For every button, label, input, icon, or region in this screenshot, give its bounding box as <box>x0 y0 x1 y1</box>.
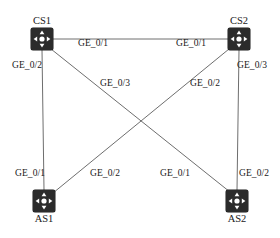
node-as1[interactable]: AS1 <box>33 190 55 212</box>
node-label-cs2: CS2 <box>209 15 269 26</box>
node-as2[interactable]: AS2 <box>226 190 248 212</box>
node-cs2[interactable]: CS2 <box>228 28 250 50</box>
edge-label-cs2-port-1: GE_0/1 <box>176 38 206 49</box>
edge-label-as2-port-2: GE_0/2 <box>239 168 269 179</box>
edge-label-cs2-port-3: GE_0/3 <box>237 60 267 71</box>
network-topology-diagram: CS1 CS2 <box>0 0 280 238</box>
edge-label-cs1-port-3: GE_0/3 <box>100 78 130 89</box>
node-label-cs1: CS1 <box>12 15 72 26</box>
edge-label-cs2-port-2: GE_0/2 <box>190 78 220 89</box>
edge-label-as1-port-1: GE_0/1 <box>15 168 45 179</box>
router-icon <box>31 28 53 50</box>
edge-label-cs1-port-2: GE_0/2 <box>12 60 42 71</box>
node-cs1[interactable]: CS1 <box>31 28 53 50</box>
node-label-as1: AS1 <box>14 213 74 224</box>
edge-label-as1-port-2: GE_0/2 <box>90 168 120 179</box>
router-icon <box>226 190 248 212</box>
node-label-as2: AS2 <box>207 213 267 224</box>
link-cs2-as1 <box>53 49 229 193</box>
router-icon <box>33 190 55 212</box>
edge-label-as2-port-1: GE_0/1 <box>160 168 190 179</box>
router-icon <box>228 28 250 50</box>
edge-label-cs1-port-1: GE_0/1 <box>78 38 108 49</box>
